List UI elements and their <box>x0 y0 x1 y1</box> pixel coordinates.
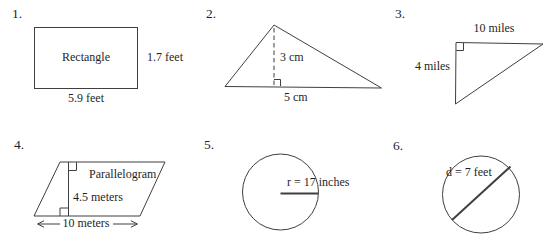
rectangle-label: Rectangle <box>34 51 138 64</box>
problem-4-number: 4. <box>14 138 24 152</box>
parallelogram-height-label: 4.5 meters <box>73 191 123 204</box>
circle-radius-label: r = 17 inches <box>287 176 349 189</box>
problem-1-number: 1. <box>12 7 22 21</box>
problem-5-number: 5. <box>204 138 214 152</box>
problem-2-number: 2. <box>206 7 216 21</box>
parallelogram-top-right-angle-marker <box>69 162 77 170</box>
right-triangle-right-angle-marker <box>456 43 463 51</box>
right-triangle-shape <box>456 43 544 105</box>
right-triangle-base-label: 10 miles <box>460 22 528 35</box>
triangle-height-label: 3 cm <box>280 51 304 64</box>
triangle-base-label: 5 cm <box>284 91 308 104</box>
parallelogram-base-label: 10 meters <box>60 217 112 230</box>
triangle-right-angle-marker <box>274 80 281 87</box>
shapes-layer <box>0 0 549 247</box>
rectangle-height-label: 1.7 feet <box>147 51 183 64</box>
rectangle-base-label: 5.9 feet <box>34 92 138 105</box>
worksheet-canvas: 1. 2. 3. 4. 5. 6. Rectangle 1.7 feet 5.9… <box>0 0 549 247</box>
parallelogram-label: Parallelogram <box>89 168 156 181</box>
problem-3-number: 3. <box>395 7 405 21</box>
right-triangle-height-label: 4 miles <box>408 60 450 73</box>
circle-radius-shape <box>243 154 319 230</box>
parallelogram-bottom-right-angle-marker <box>60 208 69 216</box>
circle-diameter-label: d = 7 feet <box>446 166 492 179</box>
problem-6-number: 6. <box>393 139 403 153</box>
